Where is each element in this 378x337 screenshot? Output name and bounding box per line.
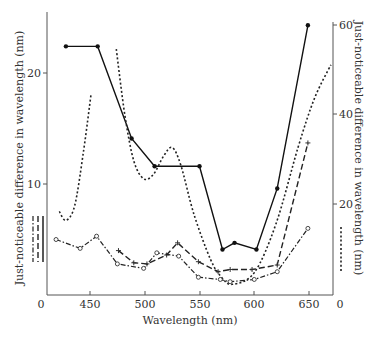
data-point-dot [254, 247, 258, 251]
y-right-tick-label-40: 40 [339, 108, 353, 121]
data-point-dot [306, 23, 310, 27]
y-left-axis-title: Just-noticeable difference in wavelength… [13, 31, 26, 287]
chart: 0 450 500 550 600 650 0 Wavelength (nm) … [0, 0, 378, 337]
data-point-dot [232, 241, 236, 245]
data-point-circle [95, 234, 99, 238]
y-right-tick-label-20: 20 [339, 198, 353, 211]
data-point-circle [196, 275, 200, 279]
data-point-circle [252, 277, 256, 281]
x-zero-right-label: 0 [337, 298, 344, 311]
x-tick-label-550: 550 [190, 298, 211, 311]
x-tick-label-600: 600 [244, 298, 265, 311]
x-tick-label-650: 650 [299, 298, 320, 311]
data-point-plus [305, 140, 310, 145]
data-point-dot [129, 136, 133, 140]
data-point-circle [115, 262, 119, 266]
series-dash-dot-line [56, 228, 308, 281]
x-zero-left-label: 0 [38, 298, 45, 311]
data-point-dot [220, 247, 224, 251]
series-dotted-segment-0 [59, 94, 91, 221]
data-point-circle [306, 226, 310, 230]
data-point-dot [275, 186, 279, 190]
data-point-dot [64, 44, 68, 48]
data-point-plus [196, 259, 201, 264]
data-point-plus [275, 263, 280, 268]
data-point-circle [275, 270, 279, 274]
y-right-tick-label-60: 60 [339, 19, 353, 32]
y-left-tick-label-10: 10 [27, 178, 41, 191]
data-point-circle [155, 251, 159, 255]
data-point-plus [131, 260, 136, 265]
data-point-circle [177, 254, 181, 258]
data-point-circle [142, 266, 146, 270]
x-tick-label-450: 450 [80, 298, 101, 311]
x-ticks [90, 291, 309, 295]
data-point-circle [228, 280, 232, 284]
y-left-tick-label-20: 20 [27, 67, 41, 80]
data-point-plus [216, 269, 221, 274]
data-point-plus [228, 267, 233, 272]
series-solid-line [66, 25, 308, 249]
data-point-circle [78, 246, 82, 250]
data-point-dot [152, 164, 156, 168]
x-tick-label-500: 500 [135, 298, 156, 311]
data-point-circle [218, 277, 222, 281]
data-point-dot [95, 44, 99, 48]
left-legend-keys [33, 216, 43, 262]
data-point-circle [54, 238, 58, 242]
series-layer [54, 23, 331, 284]
y-right-axis-title: Just-noticeable difference in wavelength… [352, 20, 365, 276]
series-dashed-line [119, 143, 308, 272]
data-point-dot [197, 164, 201, 168]
data-point-plus [250, 267, 255, 272]
x-axis-title: Wavelength (nm) [143, 314, 238, 327]
